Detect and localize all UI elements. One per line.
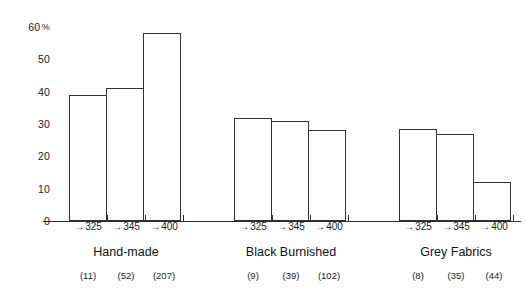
bar bbox=[308, 130, 346, 221]
x-bin-label: →325 bbox=[69, 221, 107, 232]
sample-count-label: (11) bbox=[69, 270, 107, 281]
bar-group bbox=[69, 17, 181, 221]
bar bbox=[399, 129, 437, 221]
x-bin-label: →400 bbox=[475, 221, 513, 232]
sample-count-label: (39) bbox=[272, 270, 310, 281]
x-tick-mark bbox=[513, 215, 514, 222]
bar bbox=[271, 121, 309, 221]
arrow-icon: → bbox=[480, 221, 490, 232]
bar bbox=[69, 95, 107, 221]
arrow-icon: → bbox=[315, 221, 325, 232]
sample-count-label: (102) bbox=[310, 270, 348, 281]
sample-count-label: (8) bbox=[399, 270, 437, 281]
sample-count-label: (52) bbox=[107, 270, 145, 281]
y-axis: 60%50403020100 bbox=[0, 0, 50, 304]
bar bbox=[234, 118, 272, 221]
arrow-icon: → bbox=[404, 221, 414, 232]
x-bin-label: →400 bbox=[310, 221, 348, 232]
sample-count-label: (44) bbox=[475, 270, 513, 281]
y-tick-label: 50 bbox=[4, 54, 50, 64]
arrow-icon: → bbox=[74, 221, 84, 232]
x-tick-mark bbox=[348, 215, 349, 222]
group-label: Black Burnished bbox=[234, 245, 348, 259]
y-tick-label: 10 bbox=[4, 184, 50, 194]
x-bin-label: →325 bbox=[234, 221, 272, 232]
percent-sign: % bbox=[42, 22, 50, 32]
x-tick-mark bbox=[183, 215, 184, 222]
sample-count-label: (9) bbox=[234, 270, 272, 281]
arrow-icon: → bbox=[112, 221, 122, 232]
arrow-icon: → bbox=[150, 221, 160, 232]
x-bin-label: →345 bbox=[437, 221, 475, 232]
x-bin-label: →345 bbox=[107, 221, 145, 232]
bar-group bbox=[234, 17, 346, 221]
x-bin-label: →400 bbox=[145, 221, 183, 232]
bar bbox=[436, 134, 474, 221]
y-tick-label: 20 bbox=[4, 151, 50, 161]
group-label: Hand-made bbox=[69, 245, 183, 259]
arrow-icon: → bbox=[277, 221, 287, 232]
bar-chart: 60%50403020100 →325→345→400Hand-made(11)… bbox=[0, 0, 525, 304]
y-tick-label: 30 bbox=[4, 119, 50, 129]
x-bin-label: →345 bbox=[272, 221, 310, 232]
arrow-icon: → bbox=[239, 221, 249, 232]
y-tick-label: 60% bbox=[4, 22, 50, 32]
x-bin-label: →325 bbox=[399, 221, 437, 232]
y-tick-label: 40 bbox=[4, 87, 50, 97]
arrow-icon: → bbox=[442, 221, 452, 232]
group-label: Grey Fabrics bbox=[399, 245, 513, 259]
sample-count-label: (35) bbox=[437, 270, 475, 281]
sample-count-label: (207) bbox=[145, 270, 183, 281]
bar bbox=[143, 33, 181, 221]
bar bbox=[106, 88, 144, 221]
bar-group bbox=[399, 17, 511, 221]
bar bbox=[473, 182, 511, 221]
